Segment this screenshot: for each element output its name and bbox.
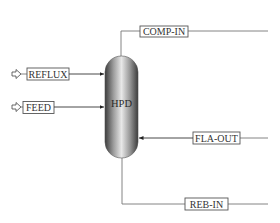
stream-reb-in[interactable]: REB-IN bbox=[122, 158, 268, 210]
reflux-label: REFLUX bbox=[29, 69, 69, 80]
comp-in-line-left bbox=[121, 31, 140, 57]
vessel-hpd[interactable]: HPD bbox=[105, 56, 138, 158]
fla-out-label: FLA-OUT bbox=[195, 133, 238, 144]
vessel-label: HPD bbox=[111, 98, 132, 109]
stream-feed[interactable]: FEED bbox=[12, 102, 104, 114]
feed-arrow-icon bbox=[12, 70, 21, 79]
feed-arrow-icon bbox=[12, 103, 21, 112]
stream-reflux[interactable]: REFLUX bbox=[12, 68, 104, 80]
stream-fla-out[interactable]: FLA-OUT bbox=[139, 132, 268, 144]
comp-in-label: COMP-IN bbox=[143, 26, 185, 37]
reb-in-label: REB-IN bbox=[190, 199, 223, 210]
flowsheet-canvas: COMP-IN REFLUX FEED FLA-OUT REB-IN HPD bbox=[0, 0, 280, 223]
reb-in-line-left bbox=[122, 158, 185, 204]
stream-comp-in[interactable]: COMP-IN bbox=[121, 26, 268, 58]
feed-label: FEED bbox=[26, 102, 51, 113]
